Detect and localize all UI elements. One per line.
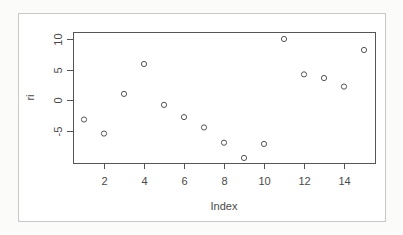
data-point [261, 141, 266, 146]
data-point [321, 75, 326, 80]
scatter-chart: 2468101214 -50510 Index ri [0, 0, 403, 235]
plot-frame [74, 33, 376, 164]
x-tick-label: 2 [101, 175, 107, 187]
x-tick-label: 10 [258, 175, 270, 187]
data-point [141, 61, 146, 66]
x-axis-title: Index [211, 200, 238, 212]
data-points [81, 36, 366, 160]
y-tick-label: -5 [52, 127, 64, 137]
x-axis: 2468101214 [101, 163, 350, 187]
y-tick-label: 5 [52, 67, 64, 73]
data-point [81, 117, 86, 122]
x-tick-label: 8 [221, 175, 227, 187]
y-tick-label: 10 [52, 33, 64, 45]
data-point [281, 36, 286, 41]
data-point [101, 131, 106, 136]
x-tick-label: 12 [298, 175, 310, 187]
data-point [241, 155, 246, 160]
data-point [221, 140, 226, 145]
data-point [201, 125, 206, 130]
x-tick-label: 14 [338, 175, 350, 187]
x-tick-label: 6 [181, 175, 187, 187]
data-point [121, 91, 126, 96]
data-point [161, 102, 166, 107]
data-point [181, 114, 186, 119]
data-point [361, 47, 366, 52]
y-axis-title: ri [24, 94, 36, 100]
y-tick-label: 0 [52, 97, 64, 103]
data-point [301, 72, 306, 77]
y-axis: -50510 [52, 33, 74, 136]
data-point [341, 84, 346, 89]
x-tick-label: 4 [141, 175, 147, 187]
